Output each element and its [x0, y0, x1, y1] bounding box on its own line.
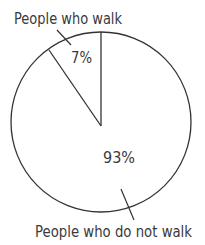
- leader-line-not-walk: [121, 189, 134, 220]
- label-walk-category: People who walk: [14, 10, 122, 28]
- pie-chart: People who walk 7% 93% People who do not…: [0, 0, 205, 245]
- label-not-walk-category: People who do not walk: [35, 223, 192, 241]
- label-walk-value: 7%: [71, 49, 92, 67]
- label-not-walk-value: 93%: [103, 149, 135, 167]
